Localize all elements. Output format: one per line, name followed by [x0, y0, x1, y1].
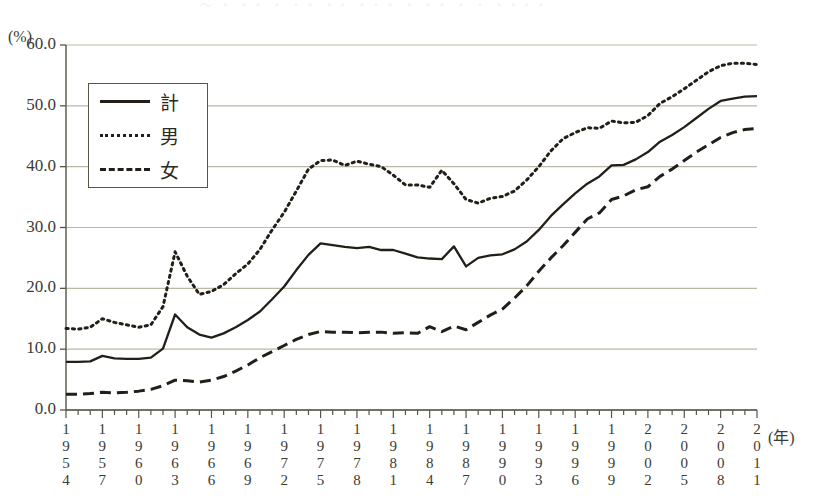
chart-figure: ～ ・ ・・ ・ ・・ ・・ ・・・ ・ ・・ ・ ・ ・・・・ (%) 計 男… [0, 0, 820, 498]
x-tick-label-1975: 1975 [312, 421, 330, 489]
legend-item-total: 計 [89, 84, 207, 118]
x-tick-label-1996: 1996 [566, 421, 584, 489]
y-tick-label-30.0: 30.0 [4, 217, 56, 237]
x-tick-label-1954: 1954 [57, 421, 75, 489]
x-tick-label-2005: 2005 [675, 421, 693, 489]
x-tick-label-1957: 1957 [93, 421, 111, 489]
x-tick-label-1978: 1978 [348, 421, 366, 489]
legend-swatch-solid-icon [100, 92, 154, 110]
x-tick-label-1993: 1993 [530, 421, 548, 489]
x-tick-label-1969: 1969 [239, 421, 257, 489]
x-tick-label-1984: 1984 [421, 421, 439, 489]
y-tick-label-40.0: 40.0 [4, 156, 56, 176]
x-tick-label-1972: 1972 [275, 421, 293, 489]
x-tick-label-1990: 1990 [493, 421, 511, 489]
x-tick-label-2002: 2002 [639, 421, 657, 489]
x-tick-label-2011: 2011 [748, 421, 766, 489]
x-tick-label-1999: 1999 [603, 421, 621, 489]
x-tick-label-1981: 1981 [384, 421, 402, 489]
legend-item-female: 女 [89, 152, 207, 186]
y-tick-label-50.0: 50.0 [4, 95, 56, 115]
legend-swatch-dotted-icon [100, 126, 154, 144]
x-tick-label-1963: 1963 [166, 421, 184, 489]
x-tick-label-1987: 1987 [457, 421, 475, 489]
legend-swatch-dashed-icon [100, 160, 154, 178]
plot-area [0, 0, 820, 498]
y-tick-label-20.0: 20.0 [4, 277, 56, 297]
y-tick-label-10.0: 10.0 [4, 338, 56, 358]
x-tick-label-2008: 2008 [712, 421, 730, 489]
y-tick-label-60.0: 60.0 [4, 34, 56, 54]
legend: 計 男 女 [88, 83, 208, 188]
x-axis-unit-label: (年) [768, 424, 795, 448]
legend-label-female: 女 [160, 156, 179, 183]
legend-label-male: 男 [160, 122, 179, 149]
y-tick-label-0.0: 0.0 [4, 399, 56, 419]
legend-item-male: 男 [89, 118, 207, 152]
legend-label-total: 計 [160, 88, 179, 115]
x-tick-label-1960: 1960 [130, 421, 148, 489]
x-tick-label-1966: 1966 [202, 421, 220, 489]
